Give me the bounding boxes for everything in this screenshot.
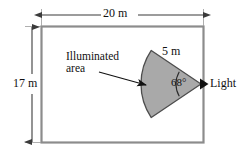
figure-canvas — [0, 0, 247, 150]
room-height-label: 17 m — [13, 77, 37, 90]
illuminated-area-label-line2: area — [66, 62, 119, 74]
light-label: Light — [210, 77, 236, 90]
sector-angle-label: 68° — [171, 77, 186, 89]
sector-radius-label: 5 m — [162, 45, 180, 58]
illuminated-area-figure: 20 m 17 m 5 m 68° Light Illuminated area — [0, 0, 247, 150]
room-width-label: 20 m — [103, 7, 127, 20]
illuminated-area-label: Illuminated area — [66, 50, 119, 74]
illuminated-area-label-line1: Illuminated — [66, 50, 119, 62]
light-point — [200, 82, 203, 85]
